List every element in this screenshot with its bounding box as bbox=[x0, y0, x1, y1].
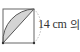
corner-point-bottom-left bbox=[2, 42, 4, 44]
side-length-label: 14 cm bbox=[38, 17, 67, 32]
corner-point-bottom-right bbox=[33, 42, 35, 44]
shaded-lens bbox=[3, 9, 34, 43]
korean-suffix-text: 의 bbox=[70, 16, 80, 32]
